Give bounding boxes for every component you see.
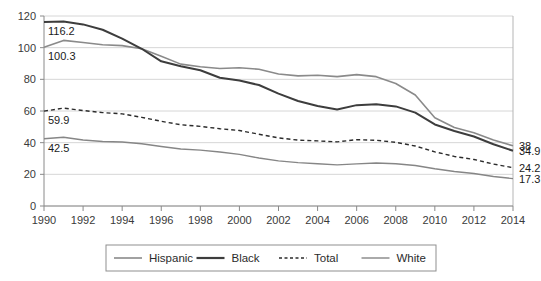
line-chart: 020406080100120 199019921994199619982000… <box>0 0 541 281</box>
y-tick-label-20: 20 <box>24 168 36 180</box>
start-label-hispanic: 100.3 <box>48 50 76 62</box>
start-label-black: 116.2 <box>48 25 75 37</box>
legend-label-black: Black <box>232 252 260 264</box>
series-line-white <box>44 137 513 178</box>
data-series-group <box>44 22 513 179</box>
legend-label-white: White <box>397 252 426 264</box>
x-axis: 1990199219941996199820002002200420062008… <box>32 206 525 226</box>
x-tick-label-1992: 1992 <box>71 214 95 226</box>
x-tick-label-2012: 2012 <box>462 214 486 226</box>
y-tick-label-0: 0 <box>30 200 36 212</box>
x-tick-label-1998: 1998 <box>188 214 212 226</box>
x-tick-label-2006: 2006 <box>344 214 368 226</box>
x-tick-label-1990: 1990 <box>32 214 56 226</box>
y-tick-label-40: 40 <box>24 137 36 149</box>
x-tick-label-2014: 2014 <box>501 214 525 226</box>
chart-canvas: 020406080100120 199019921994199619982000… <box>0 0 541 281</box>
chart-legend: HispanicBlackTotalWhite <box>106 245 436 271</box>
start-label-white: 42.5 <box>48 142 69 154</box>
y-tick-label-120: 120 <box>18 10 36 22</box>
series-line-black <box>44 22 513 151</box>
end-value-labels: 3834.924.217.3 <box>519 140 540 185</box>
y-tick-label-100: 100 <box>18 42 36 54</box>
legend-label-total: Total <box>314 252 338 264</box>
x-tick-label-2002: 2002 <box>266 214 290 226</box>
end-label-white: 17.3 <box>519 173 540 185</box>
x-tick-label-2010: 2010 <box>423 214 447 226</box>
x-tick-label-1994: 1994 <box>110 214 134 226</box>
y-tick-label-60: 60 <box>24 105 36 117</box>
end-label-black: 34.9 <box>519 145 540 157</box>
x-tick-label-2008: 2008 <box>384 214 408 226</box>
y-axis: 020406080100120 <box>18 10 44 212</box>
series-line-total <box>44 108 513 168</box>
x-tick-label-1996: 1996 <box>149 214 173 226</box>
start-label-total: 59.9 <box>48 114 69 126</box>
legend-label-hispanic: Hispanic <box>149 252 193 264</box>
y-tick-label-80: 80 <box>24 73 36 85</box>
x-tick-label-2000: 2000 <box>227 214 251 226</box>
x-tick-label-2004: 2004 <box>305 214 329 226</box>
